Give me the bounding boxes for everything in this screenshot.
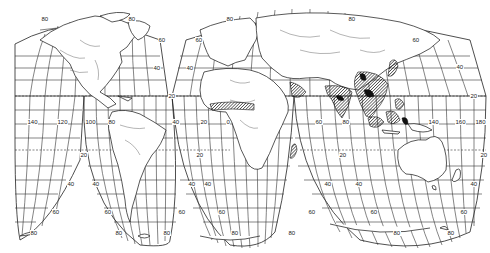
- graticule-label: 20: [80, 152, 88, 158]
- graticule-label: 120: [57, 119, 68, 125]
- graticule-label: 80: [163, 230, 171, 236]
- graticule-label: 20: [339, 152, 347, 158]
- graticule-label: 80: [115, 230, 123, 236]
- graticule-label: 140: [27, 119, 38, 125]
- continents: [20, 12, 461, 240]
- graticule-label: 60: [460, 209, 468, 215]
- graticule-label: 60: [370, 209, 378, 215]
- australia: [398, 136, 447, 182]
- graticule-label: 60: [195, 37, 203, 43]
- graticule-label: 180: [475, 119, 486, 125]
- graticule-label: 80: [393, 230, 401, 236]
- graticule-label: 60: [412, 37, 420, 43]
- graticule-label: 140: [428, 119, 439, 125]
- graticule-label: 160: [455, 119, 466, 125]
- graticule-label: 80: [342, 119, 350, 125]
- india-highlight: [325, 86, 352, 118]
- graticule-label: 40: [188, 181, 196, 187]
- graticule-label: 60: [104, 209, 112, 215]
- graticule-label: 40: [153, 65, 161, 71]
- graticule-label: 40: [456, 64, 464, 70]
- graticule-label: 80: [30, 230, 38, 236]
- graticule-label: 40: [92, 181, 100, 187]
- madagascar: [290, 144, 297, 159]
- graticule-label: 40: [470, 181, 478, 187]
- graticule-label: 80: [288, 230, 296, 236]
- graticule-label: 80: [108, 119, 116, 125]
- indonesia-highlight: [368, 117, 384, 128]
- graticule-label: 40: [355, 181, 363, 187]
- graticule-label: 40: [67, 181, 75, 187]
- graticule-label: 60: [218, 209, 226, 215]
- graticule-label: 60: [178, 209, 186, 215]
- graticule-label: 80: [226, 16, 234, 22]
- europe: [200, 18, 258, 66]
- north-america: [40, 16, 140, 108]
- graticule-label: 80: [231, 230, 239, 236]
- graticule-label: 0: [226, 119, 230, 125]
- graticule-label: 20: [480, 152, 488, 158]
- graticule-label: 80: [128, 16, 136, 22]
- graticule-label: 40: [204, 181, 212, 187]
- africa: [200, 68, 288, 169]
- graticule-label: 80: [447, 230, 455, 236]
- graticule-label: 60: [315, 119, 323, 125]
- graticule-label: 100: [85, 119, 96, 125]
- graticule-label: 60: [308, 209, 316, 215]
- graticule-label: 60: [158, 37, 166, 43]
- asia: [256, 13, 440, 90]
- graticule-label: 20: [200, 119, 208, 125]
- graticule-label: 20: [470, 93, 478, 99]
- graticule-label: 20: [168, 93, 176, 99]
- graticule-label: 80: [41, 16, 49, 22]
- graticule-label: 40: [172, 119, 180, 125]
- graticule-label: 80: [348, 16, 356, 22]
- graticule-label: 40: [324, 181, 332, 187]
- graticule-label: 60: [52, 209, 60, 215]
- graticule-label: 20: [196, 152, 204, 158]
- west-africa-highlight: [210, 102, 254, 110]
- graticule-label: 40: [186, 65, 194, 71]
